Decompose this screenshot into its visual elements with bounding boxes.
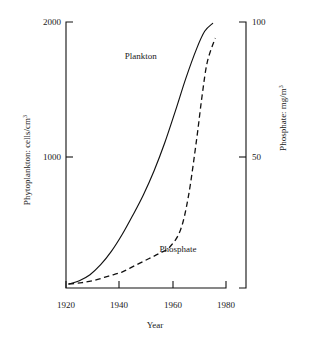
x-axis-ticklabel-1980: 1980 <box>217 300 236 310</box>
right-axis-title-text: Phosphate: mg/m <box>278 88 288 151</box>
annotation-plankton: Plankton <box>125 51 158 61</box>
left-axis-ticklabel-2000: 2000 <box>43 17 62 27</box>
x-axis-title: Year <box>147 320 164 330</box>
annotation-phosphate: Phosphate <box>160 244 197 254</box>
left-axis: 2000 1000 <box>43 17 73 288</box>
svg-text:Phosphate: mg/m3: Phosphate: mg/m3 <box>278 85 288 151</box>
chart-svg: 2000 1000 Phytoplankton: cells/cm3 100 5… <box>0 0 309 347</box>
right-axis-title-sup: 3 <box>278 85 284 88</box>
svg-text:Phytoplankton: cells/cm3: Phytoplankton: cells/cm3 <box>22 115 32 205</box>
left-axis-line <box>66 22 73 288</box>
left-axis-title: Phytoplankton: cells/cm3 <box>22 115 32 205</box>
right-axis-ticklabel-50: 50 <box>252 152 262 162</box>
left-axis-title-sup: 3 <box>22 115 28 118</box>
right-axis-ticklabel-100: 100 <box>252 17 266 27</box>
left-axis-ticklabel-1000: 1000 <box>43 152 62 162</box>
x-axis-ticklabel-1920: 1920 <box>57 300 76 310</box>
x-axis-ticklabel-1960: 1960 <box>164 300 183 310</box>
right-axis-line <box>239 22 246 288</box>
right-axis: 100 50 <box>239 17 266 288</box>
x-axis-line <box>66 281 226 288</box>
chart-figure: 2000 1000 Phytoplankton: cells/cm3 100 5… <box>0 0 309 347</box>
x-axis: 1920 1940 1960 1980 Year <box>57 281 236 330</box>
x-axis-ticklabel-1940: 1940 <box>110 300 129 310</box>
left-axis-title-text: Phytoplankton: cells/cm <box>22 118 32 205</box>
right-axis-title: Phosphate: mg/m3 <box>278 85 288 151</box>
